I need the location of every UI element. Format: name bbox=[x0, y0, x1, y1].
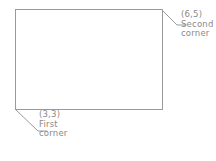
annotation-second-corner: (6,5) Second corner bbox=[181, 10, 213, 39]
rectangle-shape bbox=[16, 10, 163, 110]
diagram-canvas: (6,5) Second corner (3,3) First corner bbox=[0, 0, 216, 161]
second-corner-name-line-2: corner bbox=[181, 29, 213, 39]
annotation-first-corner: (3,3) First corner bbox=[39, 110, 68, 139]
first-corner-name-line-2: corner bbox=[39, 129, 68, 139]
